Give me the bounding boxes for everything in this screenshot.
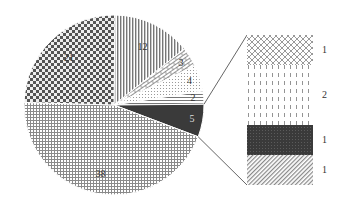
bar-segment	[247, 125, 313, 155]
bar-segment	[247, 35, 313, 65]
connector-line	[198, 137, 247, 185]
bar-segment-label: 1	[322, 44, 327, 55]
slice-label: 38	[95, 168, 105, 179]
bar-segment-label: 1	[322, 164, 327, 175]
pie-of-bar-chart: 12342538211211	[0, 0, 339, 210]
slice-label: 2	[190, 92, 195, 103]
bar-segment-label: 2	[322, 89, 327, 100]
secondary-bar	[247, 35, 313, 185]
connector-line	[204, 35, 247, 104]
slice-label: 4	[187, 75, 192, 86]
main-pie	[24, 15, 204, 195]
slice-label: 5	[189, 113, 194, 124]
slice-label: 21	[64, 52, 74, 63]
connector-lines	[198, 35, 247, 185]
bar-segment-label: 1	[322, 134, 327, 145]
slice-label: 3	[178, 57, 183, 68]
bar-segment	[247, 65, 313, 125]
bar-segment	[247, 155, 313, 185]
slice-label: 12	[137, 41, 147, 52]
